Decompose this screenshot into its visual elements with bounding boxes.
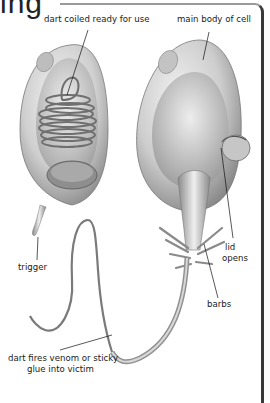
fired-dart-tube	[30, 220, 112, 352]
label-lid-line2: opens	[222, 253, 248, 264]
trigger-leader	[37, 237, 38, 260]
label-dart-coiled: dart coiled ready for use	[44, 14, 150, 25]
label-barbs: barbs	[207, 299, 231, 310]
label-lid-line1: lid	[225, 242, 235, 253]
right-cell	[112, 40, 250, 362]
dart-fires-leader	[60, 335, 112, 350]
left-cell	[20, 45, 108, 236]
label-main-body: main body of cell	[177, 14, 251, 25]
label-dart-fires-line1: dart fires venom or sticky	[8, 353, 118, 364]
label-trigger: trigger	[18, 262, 47, 273]
barbs-leader	[204, 244, 218, 298]
label-dart-fires-line2: glue into victim	[27, 364, 94, 375]
